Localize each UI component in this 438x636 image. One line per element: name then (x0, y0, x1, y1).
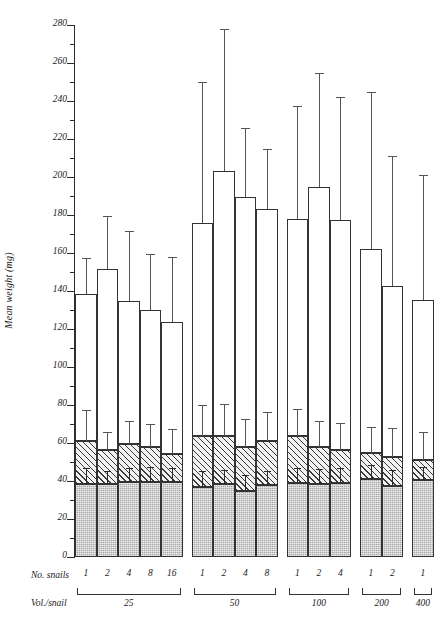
bar-segment-lower (118, 482, 140, 557)
error-bar-middle (86, 411, 87, 441)
error-bar-middle (245, 420, 246, 447)
group-brace (77, 588, 181, 595)
bar-segment-lower (140, 482, 162, 557)
y-tick-major (67, 329, 75, 330)
bar-segment-lower (256, 485, 278, 557)
error-bar-lower-cap (126, 468, 133, 469)
error-bar-middle (392, 429, 393, 458)
error-bar-middle (107, 433, 108, 450)
error-bar-total-cap (146, 254, 155, 255)
error-bar-total (371, 93, 372, 249)
bar (256, 209, 278, 557)
group-label-volume: 25 (65, 598, 193, 608)
error-bar-lower-cap (221, 470, 228, 471)
x-tick-label-snails: 2 (213, 568, 235, 578)
error-bar-lower (371, 466, 372, 479)
bar-segment-lower (97, 484, 119, 557)
plot-area (75, 25, 400, 557)
x-tick-label-snails: 16 (161, 568, 183, 578)
bar-segment-upper (287, 219, 309, 437)
x-tick-label-snails: 2 (381, 568, 403, 578)
bar (308, 187, 330, 557)
error-bar-lower (224, 471, 225, 484)
error-bar-lower-cap (199, 471, 206, 472)
error-bar-total-cap (198, 82, 207, 83)
bar-segment-lower (235, 491, 257, 557)
error-bar-total-cap (388, 156, 397, 157)
x-tick-label-snails: 1 (191, 568, 213, 578)
y-tick-label: 280 (27, 19, 67, 29)
error-bar-total-cap (168, 257, 177, 258)
x-tick-label-snails: 1 (75, 568, 97, 578)
y-tick-label: 80 (27, 399, 67, 409)
y-tick-major (67, 367, 75, 368)
error-bar-middle (202, 406, 203, 436)
group-label-volume: 100 (277, 598, 362, 608)
bar-segment-upper (235, 197, 257, 447)
error-bar-lower (319, 470, 320, 484)
error-bar-lower-cap (104, 471, 111, 472)
error-bar-lower (267, 472, 268, 485)
bar-segment-upper (360, 249, 382, 452)
bar-segment-lower (75, 484, 97, 557)
x-tick-label-snails: 8 (139, 568, 161, 578)
error-bar-middle-cap (125, 421, 134, 422)
error-bar-total (340, 98, 341, 220)
error-bar-total-cap (263, 149, 272, 150)
error-bar-total (267, 150, 268, 209)
error-bar-total (319, 74, 320, 187)
error-bar-middle (129, 422, 130, 444)
error-bar-total (392, 157, 393, 286)
error-bar-middle (172, 430, 173, 455)
error-bar-middle-cap (263, 412, 272, 413)
error-bar-total (202, 83, 203, 223)
bar (213, 171, 235, 557)
error-bar-lower-cap (83, 468, 90, 469)
group-label-volume: 50 (182, 598, 288, 608)
error-bar-middle-cap (315, 421, 324, 422)
y-tick-major (67, 291, 75, 292)
y-tick-label: 260 (27, 57, 67, 67)
error-bar-total-cap (419, 175, 428, 176)
bar-segment-lower (330, 483, 352, 557)
error-bar-total-cap (220, 29, 229, 30)
y-tick-label: 0 (27, 551, 67, 561)
error-bar-middle (267, 413, 268, 442)
bar-segment-lower (382, 486, 404, 557)
error-bar-lower (107, 472, 108, 484)
bar (192, 223, 214, 557)
error-bar-lower (245, 476, 246, 491)
error-bar-total (245, 129, 246, 197)
y-tick-label: 220 (27, 133, 67, 143)
y-tick-major (67, 25, 75, 26)
x-tick-label-snails: 2 (96, 568, 118, 578)
error-bar-lower (129, 469, 130, 482)
y-tick-major (67, 139, 75, 140)
error-bar-total (224, 30, 225, 172)
error-bar-total-cap (336, 97, 345, 98)
x-tick-label-snails: 4 (234, 568, 256, 578)
x-tick-label-snails: 8 (256, 568, 278, 578)
bar (287, 219, 309, 557)
y-tick-major (67, 519, 75, 520)
error-bar-middle-cap (198, 405, 207, 406)
y-tick-major (67, 405, 75, 406)
error-bar-total-cap (315, 73, 324, 74)
y-tick-major (67, 101, 75, 102)
bar-segment-lower (360, 479, 382, 557)
bar-segment-upper (330, 220, 352, 450)
error-bar-middle-cap (103, 432, 112, 433)
error-bar-lower-cap (169, 468, 176, 469)
bar (97, 269, 119, 557)
y-tick-major (67, 443, 75, 444)
y-tick-major (67, 253, 75, 254)
group-brace (414, 588, 432, 595)
error-bar-middle-cap (419, 432, 428, 433)
y-tick-label: 120 (27, 323, 67, 333)
row-label-snails: No. snails (31, 570, 69, 580)
error-bar-lower-cap (337, 468, 344, 469)
error-bar-total (150, 255, 151, 310)
y-tick-label: 20 (27, 513, 67, 523)
bar-segment-upper (97, 269, 119, 450)
